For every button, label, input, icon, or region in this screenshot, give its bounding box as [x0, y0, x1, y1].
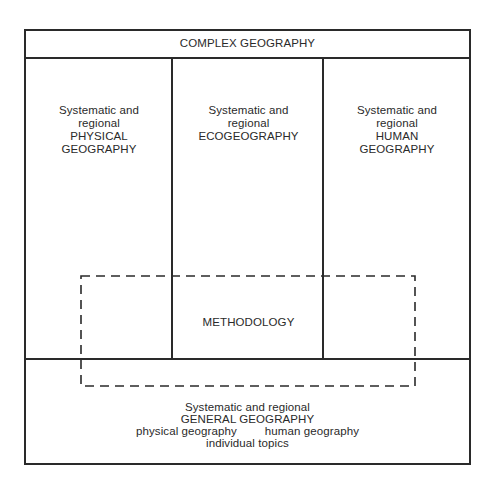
methodology-label: METHODOLOGY — [174, 316, 323, 329]
complex-geography-title: COMPLEX GEOGRAPHY — [26, 37, 469, 50]
ecogeography-label: Systematic and regional ECOGEOGRAPHY — [174, 104, 323, 143]
methodology-dashed-box — [80, 275, 416, 387]
general-geography-label: Systematic and regional GENERAL GEOGRAPH… — [26, 401, 469, 449]
title-text: COMPLEX GEOGRAPHY — [26, 37, 469, 50]
label-line: regional — [325, 117, 469, 130]
header-divider — [24, 57, 471, 59]
label-line: regional — [174, 117, 323, 130]
general-subfields: physical geographyhuman geography — [26, 425, 469, 437]
geography-structure-diagram: COMPLEX GEOGRAPHY Systematic and regiona… — [0, 0, 491, 486]
label-line: regional — [26, 117, 172, 130]
human-geography-label: Systematic and regional HUMAN GEOGRAPHY — [325, 104, 469, 156]
label-line: GEOGRAPHY — [325, 143, 469, 156]
methodology-text: METHODOLOGY — [174, 316, 323, 329]
individual-topics: individual topics — [26, 437, 469, 449]
label-line: Systematic and — [26, 104, 172, 117]
human-geography-subfield: human geography — [265, 425, 359, 437]
label-line: Systematic and — [174, 104, 323, 117]
label-line: ECOGEOGRAPHY — [174, 130, 323, 143]
label-line: GEOGRAPHY — [26, 143, 172, 156]
general-line-2: GENERAL GEOGRAPHY — [26, 413, 469, 425]
physical-geography-label: Systematic and regional PHYSICAL GEOGRAP… — [26, 104, 172, 156]
general-line-1: Systematic and regional — [26, 401, 469, 413]
label-line: Systematic and — [325, 104, 469, 117]
physical-geography-subfield: physical geography — [136, 425, 237, 437]
label-line: HUMAN — [325, 130, 469, 143]
label-line: PHYSICAL — [26, 130, 172, 143]
complex-geography-frame — [24, 29, 471, 465]
